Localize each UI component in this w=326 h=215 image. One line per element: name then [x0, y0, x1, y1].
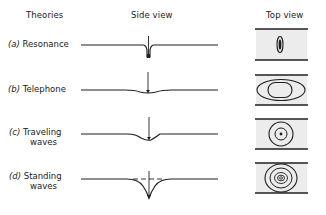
diagram-canvas — [0, 0, 326, 215]
side-view-resonance — [81, 36, 218, 58]
side-view-traveling-waves — [81, 117, 218, 140]
top-view-telephone — [255, 75, 308, 106]
top-view-traveling-waves — [255, 119, 308, 149]
top-view-resonance — [255, 29, 308, 60]
top-view-standing-waves — [255, 163, 308, 193]
side-view-telephone — [81, 72, 218, 93]
side-view-standing-waves — [81, 171, 218, 199]
